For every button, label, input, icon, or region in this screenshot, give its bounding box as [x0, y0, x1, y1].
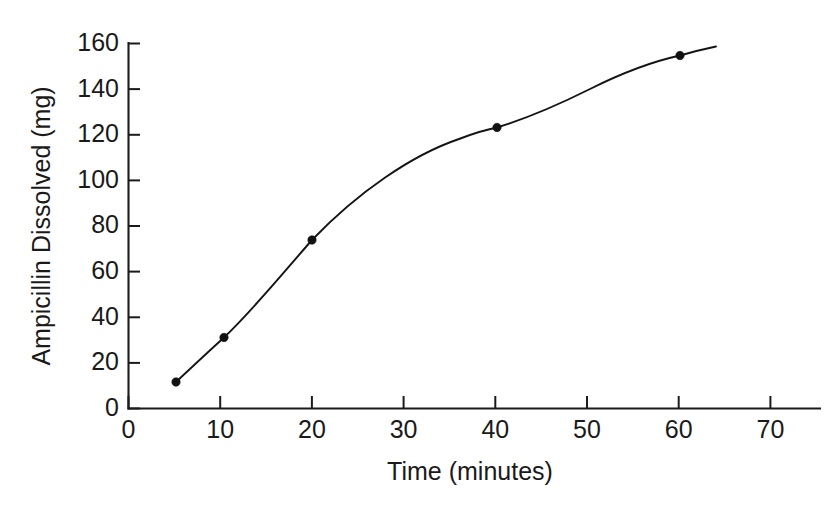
x-tick-label-70: 70: [756, 415, 784, 443]
x-tick-label-60: 60: [665, 415, 693, 443]
data-point-10min: [220, 333, 228, 341]
x-tick-label-10: 10: [206, 415, 234, 443]
chart-canvas: 0 20 40 60 80 100 120 140 160 0 10 20 30…: [0, 0, 837, 509]
data-point-5min: [172, 378, 180, 386]
y-axis-title: Ampicillin Dissolved (mg): [27, 86, 55, 365]
x-tick-label-20: 20: [298, 415, 326, 443]
y-tick-labels: 0 20 40 60 80 100 120 140 160: [77, 28, 119, 421]
x-tick-labels: 0 10 20 30 40 50 60 70: [122, 415, 785, 443]
y-tick-label-40: 40: [91, 302, 119, 330]
x-tick-label-50: 50: [573, 415, 601, 443]
y-tick-label-20: 20: [91, 347, 119, 375]
y-tick-label-100: 100: [77, 165, 119, 193]
dissolution-chart: 0 20 40 60 80 100 120 140 160 0 10 20 30…: [0, 0, 837, 509]
data-markers: [172, 51, 684, 386]
data-point-20min: [308, 236, 316, 244]
y-tick-label-80: 80: [91, 210, 119, 238]
y-tick-marks: [129, 44, 141, 409]
y-tick-label-160: 160: [77, 28, 119, 56]
x-axis-title: Time (minutes): [387, 457, 553, 485]
x-tick-marks: [129, 396, 771, 409]
y-tick-label-60: 60: [91, 256, 119, 284]
y-tick-label-120: 120: [77, 119, 119, 147]
x-tick-label-0: 0: [122, 415, 136, 443]
y-tick-label-0: 0: [105, 393, 119, 421]
y-tick-label-140: 140: [77, 74, 119, 102]
dissolution-curve: [176, 47, 716, 383]
data-point-60min: [676, 51, 684, 59]
x-tick-label-30: 30: [390, 415, 418, 443]
data-point-40min: [493, 123, 501, 131]
x-tick-label-40: 40: [481, 415, 509, 443]
